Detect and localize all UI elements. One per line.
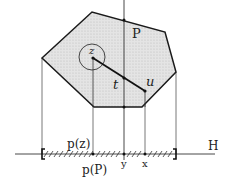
point-bottom-intersection bbox=[123, 106, 126, 109]
point-y bbox=[123, 153, 126, 156]
point-top-intersection bbox=[123, 19, 126, 22]
label-pP: p(P) bbox=[82, 163, 107, 177]
label-pz: p(z) bbox=[67, 137, 90, 151]
label-h: H bbox=[208, 139, 218, 153]
label-x: x bbox=[142, 158, 148, 169]
label-z: z bbox=[88, 45, 95, 56]
point-z bbox=[91, 56, 94, 59]
point-t bbox=[122, 76, 125, 79]
point-pz bbox=[92, 153, 95, 156]
label-y: y bbox=[120, 158, 127, 169]
diagram-canvas: P z t u y x H p(z) p(P) bbox=[0, 0, 226, 185]
label-polygon-p: P bbox=[132, 26, 141, 41]
polygon-p bbox=[42, 12, 176, 107]
label-t: t bbox=[113, 77, 119, 92]
label-u: u bbox=[146, 74, 154, 89]
point-u bbox=[143, 89, 146, 92]
point-x bbox=[144, 153, 147, 156]
